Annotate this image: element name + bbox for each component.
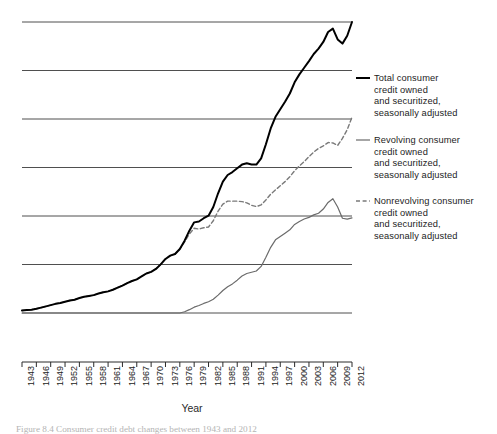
x-tick-label-1964: 1964: [127, 366, 137, 386]
x-tick-label-1985: 1985: [227, 366, 237, 386]
x-tick-label-1970: 1970: [155, 366, 165, 386]
legend-label-line: and securitized,: [374, 158, 460, 170]
x-tick-label-2006: 2006: [328, 366, 338, 386]
legend-label-line: credit owned: [374, 208, 474, 220]
legend-item-total[interactable]: Total consumercredit ownedand securitize…: [374, 73, 458, 119]
x-tick-label-1943: 1943: [26, 366, 36, 386]
figure-container: 1943194619491952195519581961196419671970…: [0, 0, 497, 434]
legend-item-nonrevolving[interactable]: Nonrevolving consumercredit ownedand sec…: [374, 196, 474, 242]
x-tick-label-1946: 1946: [41, 366, 51, 386]
x-tick-label-1991: 1991: [256, 366, 266, 386]
x-tick-label-1994: 1994: [270, 366, 280, 386]
legend-item-revolving[interactable]: Revolving consumercredit ownedand securi…: [374, 135, 460, 181]
x-tick-label-2012: 2012: [356, 366, 366, 386]
x-tick-label-1967: 1967: [141, 366, 151, 386]
x-tick-label-1976: 1976: [184, 366, 194, 386]
x-tick-label-2003: 2003: [313, 366, 323, 386]
legend-label-line: and securitized,: [374, 219, 474, 231]
x-axis-title: Year: [0, 402, 384, 414]
legend-markers: [356, 78, 370, 201]
x-tick-label-1949: 1949: [55, 366, 65, 386]
x-tick-label-1958: 1958: [98, 366, 108, 386]
gridlines: [22, 22, 352, 313]
legend-label-line: seasonally adjusted: [374, 231, 474, 243]
legend-label-line: seasonally adjusted: [374, 170, 460, 182]
x-tick-label-1982: 1982: [213, 366, 223, 386]
legend-label-line: credit owned: [374, 147, 460, 159]
legend-label-line: and securitized,: [374, 96, 458, 108]
legend-label-line: credit owned: [374, 85, 458, 97]
x-tick-label-1997: 1997: [284, 366, 294, 386]
x-tick-label-2000: 2000: [299, 366, 309, 386]
legend-label-line: seasonally adjusted: [374, 108, 458, 120]
figure-caption: Figure 8.4 Consumer credit debt changes …: [16, 424, 257, 434]
series-line-2: [22, 117, 352, 310]
x-tick-label-1973: 1973: [170, 366, 180, 386]
series-line-0: [22, 22, 352, 311]
x-tick-label-1988: 1988: [241, 366, 251, 386]
x-tick-label-1961: 1961: [112, 366, 122, 386]
legend-label-line: Total consumer: [374, 73, 458, 85]
legend-label-line: Revolving consumer: [374, 135, 460, 147]
x-tick-label-2009: 2009: [342, 366, 352, 386]
legend-label-line: Nonrevolving consumer: [374, 196, 474, 208]
x-tick-label-1952: 1952: [69, 366, 79, 386]
x-tick-label-1979: 1979: [198, 366, 208, 386]
x-tick-label-1955: 1955: [84, 366, 94, 386]
